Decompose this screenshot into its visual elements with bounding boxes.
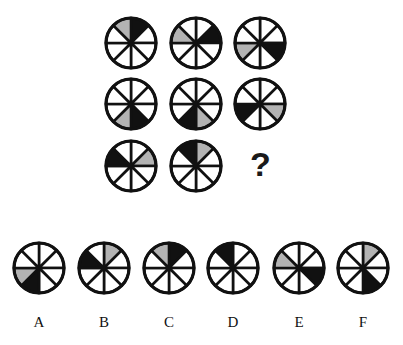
option-wheel-c[interactable] <box>141 240 197 296</box>
grid-wheel-r2c1 <box>103 76 159 132</box>
option-label-e: E <box>289 314 309 331</box>
option-label-a: A <box>29 314 49 331</box>
option-wheel-e[interactable] <box>271 240 327 296</box>
option-label-d: D <box>223 314 243 331</box>
grid-wheel-r1c3 <box>232 15 288 71</box>
option-wheel-f[interactable] <box>335 240 391 296</box>
option-label-c: C <box>159 314 179 331</box>
grid-wheel-r1c1 <box>103 15 159 71</box>
grid-wheel-r3c2 <box>168 138 224 194</box>
option-wheel-d[interactable] <box>205 240 261 296</box>
grid-wheel-r2c3 <box>232 76 288 132</box>
option-label-b: B <box>94 314 114 331</box>
option-wheel-b[interactable] <box>76 240 132 296</box>
option-label-f: F <box>353 314 373 331</box>
option-wheel-a[interactable] <box>11 240 67 296</box>
grid-wheel-r1c2 <box>168 15 224 71</box>
question-mark: ? <box>250 145 271 184</box>
grid-wheel-r3c1 <box>103 138 159 194</box>
grid-wheel-r2c2 <box>168 76 224 132</box>
